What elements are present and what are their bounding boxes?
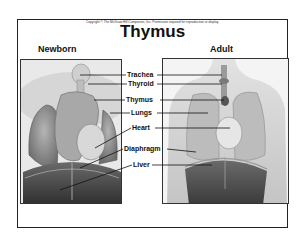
adult-illustration: [162, 58, 289, 204]
figure-title: Thymus: [0, 22, 305, 42]
newborn-anatomy-drawing: [21, 60, 122, 204]
label-heart: Heart: [132, 124, 150, 131]
label-lungs: Lungs: [131, 109, 152, 116]
label-thymus: Thymus: [126, 96, 153, 103]
label-thyroid: Thyroid: [128, 80, 154, 87]
label-liver: Liver: [133, 161, 150, 168]
newborn-illustration: [20, 59, 122, 204]
label-diaphragm: Diaphragm: [124, 145, 161, 152]
newborn-heading: Newborn: [38, 44, 77, 54]
adult-anatomy-drawing: [163, 59, 289, 204]
adult-heading: Adult: [210, 44, 233, 54]
label-trachea: Trachea: [127, 71, 153, 78]
